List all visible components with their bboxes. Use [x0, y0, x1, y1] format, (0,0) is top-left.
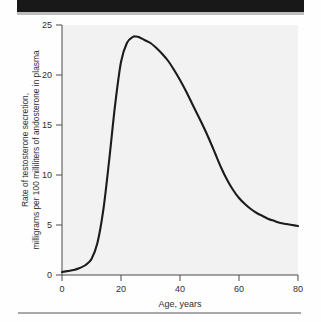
y-tick-label-15: 15	[42, 120, 52, 130]
figure-container: 0 5 10 15 20 25 0 20 40 60 80	[0, 15, 321, 312]
x-axis-tick-labels: 0 20 40 60 80	[59, 284, 303, 294]
y-axis-title-line1: Rate of testosterone secretion,	[20, 93, 30, 207]
x-tick-label-80: 80	[293, 284, 303, 294]
scan-artifact-top-bar	[17, 0, 304, 12]
y-tick-label-10: 10	[42, 170, 52, 180]
y-tick-label-25: 25	[42, 20, 52, 30]
y-axis-tick-labels: 0 5 10 15 20 25	[42, 20, 52, 280]
x-tick-label-0: 0	[59, 284, 64, 294]
x-axis-title: Age, years	[158, 299, 202, 309]
y-axis-title-line2: milligrams per 100 milliliters of andost…	[31, 50, 41, 250]
x-tick-label-40: 40	[175, 284, 185, 294]
page-canvas: 0 5 10 15 20 25 0 20 40 60 80	[0, 0, 321, 322]
x-tick-label-20: 20	[116, 284, 126, 294]
y-axis-ticks	[56, 25, 62, 275]
y-tick-label-5: 5	[47, 220, 52, 230]
plot-area-background	[62, 25, 298, 275]
y-tick-label-20: 20	[42, 70, 52, 80]
page-bottom-rule	[18, 312, 301, 314]
y-tick-label-0: 0	[47, 270, 52, 280]
testosterone-secretion-line-chart: 0 5 10 15 20 25 0 20 40 60 80	[0, 15, 321, 312]
x-tick-label-60: 60	[234, 284, 244, 294]
x-axis-ticks	[62, 275, 298, 281]
